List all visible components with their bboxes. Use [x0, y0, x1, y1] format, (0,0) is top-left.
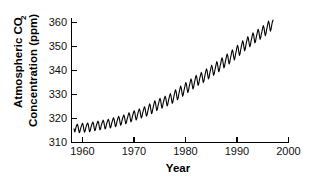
co2-chart-figure: Atmospheric CO 2 Concentration (ppm) 360… — [0, 0, 309, 180]
x-tick-label: 1960 — [70, 145, 94, 157]
y-tick-labels: 360 350 340 330 320 310 — [49, 16, 67, 148]
chart-svg: Atmospheric CO 2 Concentration (ppm) 360… — [0, 0, 309, 180]
y-tick-label: 320 — [49, 112, 67, 124]
y-tick-label: 310 — [49, 136, 67, 148]
y-tick-label: 330 — [49, 88, 67, 100]
x-tick-label: 1970 — [122, 145, 146, 157]
x-axis-title: Year — [166, 162, 191, 174]
y-tick-label: 350 — [49, 40, 67, 52]
y-tick-marks — [72, 23, 78, 119]
x-tick-label: 1990 — [225, 145, 249, 157]
co2-series-line — [74, 20, 273, 133]
y-tick-label: 340 — [49, 64, 67, 76]
x-tick-label: 1980 — [173, 145, 197, 157]
y-axis-title: Atmospheric CO 2 Concentration (ppm) — [12, 14, 39, 127]
x-tick-labels: 1960 1970 1980 1990 2000 — [70, 145, 300, 157]
y-tick-label: 360 — [49, 16, 67, 28]
x-tick-marks — [83, 137, 289, 143]
x-tick-label: 2000 — [276, 145, 300, 157]
y-axis-title-line1: Atmospheric CO — [12, 17, 24, 108]
y-axis-title-line2: Concentration (ppm) — [27, 14, 39, 127]
